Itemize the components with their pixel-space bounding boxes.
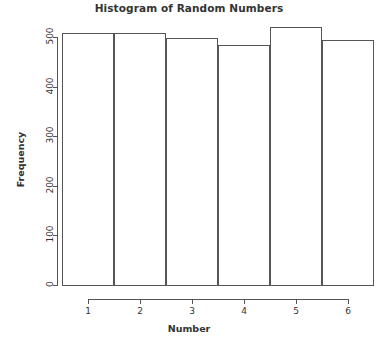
- x-tick-3: [192, 299, 193, 304]
- bar-2: [114, 33, 166, 286]
- y-tick-label-400: 400: [45, 71, 55, 101]
- x-axis-line: [88, 299, 349, 300]
- x-tick-label-5: 5: [286, 306, 306, 316]
- histogram-figure: Histogram of Random Numbers Frequency 01…: [0, 0, 378, 344]
- bar-1: [62, 33, 114, 286]
- y-tick-label-100: 100: [45, 219, 55, 249]
- y-tick-label-200: 200: [45, 170, 55, 200]
- x-tick-6: [348, 299, 349, 304]
- bar-5: [270, 27, 322, 286]
- y-axis-title: Frequency: [15, 100, 26, 220]
- y-axis-line: [57, 37, 58, 286]
- x-tick-label-6: 6: [338, 306, 358, 316]
- y-tick-label-0: 0: [45, 269, 55, 299]
- bar-4: [218, 45, 270, 286]
- y-tick-label-300: 300: [45, 120, 55, 150]
- x-tick-4: [244, 299, 245, 304]
- x-tick-label-3: 3: [182, 306, 202, 316]
- x-axis-title: Number: [0, 323, 378, 334]
- plot-area: Frequency 0100200300400500 123456 Number: [0, 0, 378, 344]
- x-tick-2: [140, 299, 141, 304]
- x-tick-5: [296, 299, 297, 304]
- x-tick-label-4: 4: [234, 306, 254, 316]
- bar-3: [166, 38, 218, 286]
- x-tick-1: [88, 299, 89, 304]
- x-tick-label-2: 2: [130, 306, 150, 316]
- bar-6: [322, 40, 374, 286]
- y-tick-label-500: 500: [45, 21, 55, 51]
- x-tick-label-1: 1: [78, 306, 98, 316]
